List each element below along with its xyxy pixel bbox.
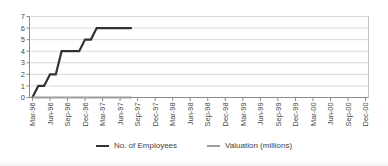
legend-item-employees: No. of Employees — [96, 141, 177, 150]
legend-item-valuation: Valuation (millions) — [207, 141, 292, 150]
x-axis-tick-label: Jun-98 — [186, 102, 195, 125]
x-axis-tick-label: Sep-97 — [133, 102, 142, 126]
x-axis-tick-label: Mar-00 — [309, 102, 318, 126]
x-axis-tick-label: Dec-99 — [291, 102, 300, 126]
x-axis-tick-label: Dec-96 — [81, 102, 90, 126]
legend-label-valuation: Valuation (millions) — [225, 141, 292, 150]
y-axis-tick-label: 2 — [21, 70, 25, 79]
chart-figure: 01234567Mar-96Jun-96Sep-96Dec-96Mar-97Ju… — [0, 0, 388, 166]
legend-label-employees: No. of Employees — [114, 141, 177, 150]
chart-legend: No. of Employees Valuation (millions) — [0, 141, 388, 150]
x-axis-tick-label: Sep-96 — [63, 102, 72, 126]
y-axis-tick-label: 7 — [21, 12, 25, 21]
x-axis-tick-label: Dec-00 — [361, 102, 370, 126]
y-axis-tick-label: 4 — [21, 47, 25, 56]
y-axis-tick-label: 5 — [21, 35, 25, 44]
x-axis-tick-label: Mar-97 — [98, 102, 107, 126]
y-axis-tick-label: 0 — [21, 93, 25, 102]
x-axis-tick-label: Jun-99 — [256, 102, 265, 125]
x-axis-tick-label: Mar-98 — [168, 102, 177, 126]
x-axis-tick-label: Jun-96 — [46, 102, 55, 125]
y-axis-tick-label: 1 — [21, 82, 25, 91]
x-axis-tick-label: Dec-98 — [221, 102, 230, 126]
x-axis-tick-label: Dec-97 — [151, 102, 160, 126]
legend-line-swatch-employees — [96, 145, 109, 147]
x-axis-tick-label: Sep-00 — [344, 102, 353, 126]
x-axis-tick-label: Jun-97 — [116, 102, 125, 125]
x-axis-tick-label: Sep-99 — [274, 102, 283, 126]
x-axis-tick-label: Sep-98 — [203, 102, 212, 126]
y-axis-tick-label: 3 — [21, 58, 25, 67]
y-axis-tick-label: 6 — [21, 24, 25, 33]
x-axis-tick-label: Mar-96 — [28, 102, 37, 126]
legend-line-swatch-valuation — [207, 145, 220, 147]
x-axis-tick-label: Mar-99 — [239, 102, 248, 126]
x-axis-tick-label: Jun-00 — [326, 102, 335, 125]
